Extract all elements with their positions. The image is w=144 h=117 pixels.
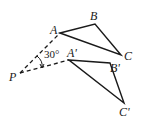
label-A: A bbox=[49, 23, 58, 37]
label-C-prime: C' bbox=[119, 105, 130, 117]
angle-arc bbox=[37, 56, 42, 67]
angle-label: 30° bbox=[44, 48, 59, 60]
label-B: B bbox=[90, 9, 98, 23]
label-A-prime: A' bbox=[66, 46, 77, 60]
label-C: C bbox=[124, 49, 133, 63]
rotation-diagram: P A B C A' B' C' 30° bbox=[0, 0, 144, 117]
label-B-prime: B' bbox=[110, 61, 120, 75]
label-P: P bbox=[8, 70, 17, 84]
